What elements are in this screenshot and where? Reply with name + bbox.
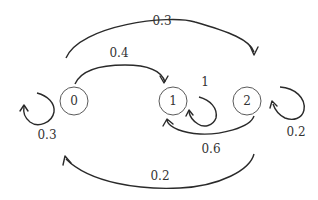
edge-label-2-to-2: 0.2 (286, 125, 305, 139)
state-label-0: 0 (70, 94, 78, 108)
state-node-2: 2 (233, 87, 261, 115)
edge-2-to-1: 0.6 (163, 116, 254, 156)
edge-2-to-2: 0.2 (270, 87, 306, 139)
edge-label-1-to-1: 1 (201, 75, 209, 89)
state-node-0: 0 (60, 87, 88, 115)
state-label-1: 1 (169, 94, 177, 108)
state-node-1: 1 (159, 87, 187, 115)
state-label-2: 2 (243, 94, 251, 108)
edge-label-0-to-2: 0.3 (152, 14, 171, 28)
edge-label-0-to-1: 0.4 (109, 46, 128, 60)
edge-label-2-to-0: 0.2 (150, 169, 169, 183)
edge-label-2-to-1: 0.6 (201, 142, 220, 156)
edge-0-to-0: 0.3 (20, 93, 57, 142)
state-diagram: 0.3 0.4 0.3 1 0.2 0.6 0.2 0 (0, 0, 318, 200)
edge-0-to-1: 0.4 (75, 46, 168, 84)
edge-label-0-to-0: 0.3 (37, 128, 56, 142)
edge-2-to-0: 0.2 (63, 154, 254, 188)
edge-0-to-2: 0.3 (66, 14, 258, 58)
edge-1-to-1: 1 (186, 75, 216, 126)
